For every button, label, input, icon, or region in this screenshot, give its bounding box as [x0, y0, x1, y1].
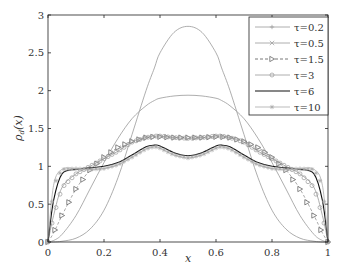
- y-tick-label: 1: [38, 161, 44, 172]
- y-tick-label: 1.5: [28, 123, 44, 134]
- x-tick-label: 0.8: [264, 247, 280, 258]
- x-tick-label: 0.4: [152, 247, 168, 258]
- y-tick-label: 2.5: [28, 47, 44, 58]
- x-tick-label: 0: [45, 247, 51, 258]
- legend-label: τ=0.2: [294, 22, 324, 33]
- y-axis-label: ρd(x): [12, 115, 26, 142]
- y-tick-label: 2: [38, 85, 44, 96]
- legend-label: τ=6: [294, 86, 314, 97]
- x-axis-label: x: [185, 252, 192, 265]
- legend-label: τ=1.5: [294, 54, 324, 65]
- legend-label: τ=3: [294, 70, 314, 81]
- y-tick-label: 0.5: [28, 199, 44, 210]
- legend-label: τ=10: [294, 102, 321, 113]
- x-tick-label: 0.6: [208, 247, 224, 258]
- legend-label: τ=0.5: [294, 38, 324, 49]
- y-tick-label: 3: [38, 10, 44, 21]
- x-tick-label: 1: [325, 247, 331, 258]
- series-1.5: [46, 134, 331, 244]
- x-tick-label: 0.2: [96, 247, 112, 258]
- y-tick-label: 0: [38, 237, 44, 248]
- series-10: [46, 145, 330, 244]
- line-chart: 00.20.40.60.81 00.511.522.53 x ρd(x) τ=0…: [0, 0, 344, 277]
- series-3: [46, 134, 330, 244]
- legend: τ=0.2τ=0.5τ=1.5τ=3τ=6τ=10: [249, 17, 328, 115]
